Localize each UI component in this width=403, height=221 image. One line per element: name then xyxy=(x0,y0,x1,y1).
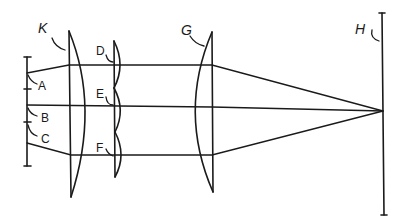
label-c: C xyxy=(41,132,50,146)
label-e: E xyxy=(96,87,104,101)
lenslet-array xyxy=(114,41,121,177)
leader-lines xyxy=(28,30,379,156)
label-k: K xyxy=(38,20,48,36)
label-d: D xyxy=(96,44,105,58)
label-g: G xyxy=(181,22,192,38)
screen-h xyxy=(379,13,387,215)
label-f: F xyxy=(96,141,103,155)
lens-g xyxy=(195,32,213,192)
optical-diagram: K D E F G H A B C xyxy=(0,0,403,221)
label-h: H xyxy=(355,21,366,37)
light-rays xyxy=(27,65,383,155)
lens-k xyxy=(69,31,85,197)
label-a: A xyxy=(38,79,46,93)
label-b: B xyxy=(41,111,49,125)
